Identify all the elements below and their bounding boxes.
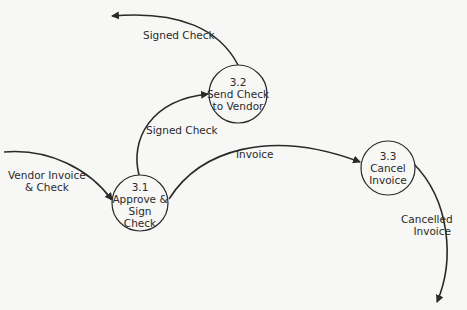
process-line: Approve & [110,193,170,205]
process-line: Check [110,217,170,229]
flow-label-line: Cancelled [401,213,451,225]
process-3-1-label: 3.1 Approve & Sign Check [110,181,170,229]
flow-label-cancelled-invoice: Cancelled Invoice [401,213,451,237]
flow-label-line: Vendor Invoice [8,169,86,181]
flow-label-vendor-invoice: Vendor Invoice & Check [8,169,86,193]
process-line: Sign [110,205,170,217]
process-line: to Vendor [206,100,270,112]
flow-label-line: & Check [8,181,86,193]
flow-label-line: Invoice [236,148,274,160]
flow-label-signed-check-out: Signed Check [143,29,215,41]
process-number: 3.1 [110,181,170,193]
process-line: Cancel [360,162,416,174]
process-3-2-label: 3.2 Send Check to Vendor [206,76,270,112]
process-number: 3.2 [206,76,270,88]
process-3-3-label: 3.3 Cancel Invoice [360,150,416,186]
flow-label-signed-check-in: Signed Check [146,124,218,136]
flow-label-line: Invoice [401,225,451,237]
flow-label-invoice: Invoice [236,148,274,160]
process-line: Invoice [360,174,416,186]
process-number: 3.3 [360,150,416,162]
flow-label-line: Signed Check [146,124,218,136]
flow-label-line: Signed Check [143,29,215,41]
process-line: Send Check [206,88,270,100]
